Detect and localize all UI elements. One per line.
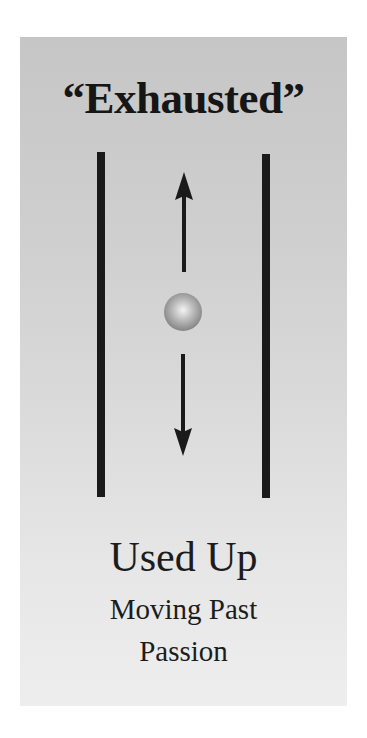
up-arrow-icon bbox=[172, 170, 196, 274]
sphere-icon bbox=[164, 293, 202, 331]
left-boundary-line bbox=[97, 152, 105, 497]
panel-title: “Exhausted” bbox=[0, 72, 367, 124]
caption-sub-line-2: Passion bbox=[0, 634, 367, 668]
right-boundary-line bbox=[262, 154, 270, 498]
caption-main: Used Up bbox=[0, 532, 367, 582]
down-arrow-icon bbox=[171, 354, 195, 458]
caption-sub-line-1: Moving Past bbox=[0, 592, 367, 626]
